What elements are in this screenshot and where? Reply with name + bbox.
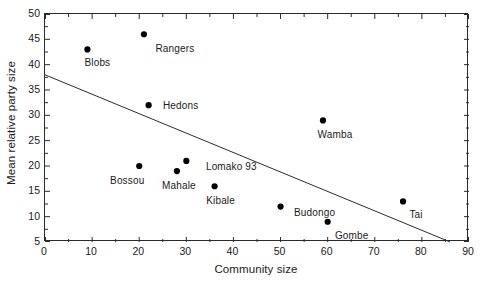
y-tick-label: 15 <box>16 184 40 196</box>
data-point-label: Budongo <box>294 206 335 217</box>
data-point-marker <box>141 31 147 37</box>
y-tick-label: 20 <box>16 159 40 171</box>
y-tick-label: 30 <box>16 108 40 120</box>
plot-canvas <box>45 14 469 242</box>
data-point-marker <box>320 117 326 123</box>
data-point-label: Tai <box>409 209 422 220</box>
data-point-marker <box>84 46 90 52</box>
x-tick-label: 0 <box>29 245 59 257</box>
x-tick-label: 90 <box>453 245 483 257</box>
y-tick-label: 50 <box>16 7 40 19</box>
x-tick-label: 40 <box>217 245 247 257</box>
data-point-label: Kibale <box>206 195 235 206</box>
x-tick-label: 50 <box>265 245 295 257</box>
data-point-label: Rangers <box>155 43 194 54</box>
x-tick-label: 60 <box>312 245 342 257</box>
x-tick-label: 70 <box>359 245 389 257</box>
data-point-label: Bossou <box>110 175 144 186</box>
y-tick-label: 10 <box>16 210 40 222</box>
data-point-marker <box>136 163 142 169</box>
plot-area: BlobsRangersHedonsBossouMahaleLomako 93K… <box>44 13 468 241</box>
data-point-label: Hedons <box>163 100 198 111</box>
x-tick-label: 10 <box>76 245 106 257</box>
data-point-label: Blobs <box>85 57 111 68</box>
x-axis-title-text: Community size <box>214 263 297 275</box>
y-axis-tick-labels: 5101520253035404550 <box>0 13 40 241</box>
data-point-label: Lomako 93 <box>206 160 257 171</box>
data-point-label: Wamba <box>318 129 353 140</box>
y-tick-label: 35 <box>16 83 40 95</box>
y-tick-label: 40 <box>16 58 40 70</box>
y-tick-label: 25 <box>16 134 40 146</box>
data-point-marker <box>325 219 331 225</box>
x-tick-label: 30 <box>170 245 200 257</box>
regression-line <box>45 75 450 242</box>
x-axis-title: Community size <box>44 263 468 275</box>
data-point-marker <box>277 203 283 209</box>
scatter-plot-figure: Mean relative party size 510152025303540… <box>0 0 491 287</box>
data-point-label: Mahale <box>162 180 196 191</box>
data-point-marker <box>146 102 152 108</box>
data-point-label: Gombe <box>335 229 369 240</box>
y-tick-label: 45 <box>16 32 40 44</box>
data-point-marker <box>183 158 189 164</box>
data-point-marker <box>400 198 406 204</box>
data-point-marker <box>212 183 218 189</box>
x-tick-label: 80 <box>406 245 436 257</box>
data-point-marker <box>174 168 180 174</box>
x-axis-tick-labels: 0102030405060708090 <box>44 245 468 261</box>
x-tick-label: 20 <box>123 245 153 257</box>
